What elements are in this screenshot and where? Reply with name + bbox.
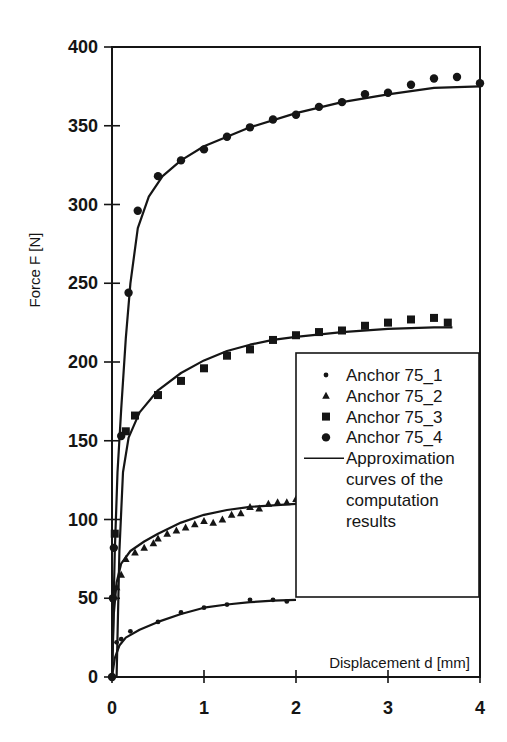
circle-marker: [154, 172, 162, 180]
square-marker: [269, 336, 277, 344]
square-marker: [444, 319, 452, 327]
triangle-marker: [265, 500, 273, 507]
triangle-marker: [283, 498, 291, 505]
square-marker: [223, 352, 231, 360]
circle-marker: [124, 289, 132, 297]
circle-marker: [292, 111, 300, 119]
legend-label: Anchor 75_2: [346, 387, 442, 406]
circle-marker: [453, 73, 461, 81]
square-marker: [292, 331, 300, 339]
triangle-marker: [209, 519, 217, 526]
circle-marker: [338, 98, 346, 106]
square-marker: [384, 319, 392, 327]
square-marker: [430, 314, 438, 322]
y-tick-label: 150: [68, 431, 98, 451]
circle-marker: [361, 90, 369, 98]
circle-legend-icon: [322, 433, 330, 441]
circle-marker: [134, 207, 142, 215]
small-dot-legend-icon: [324, 373, 329, 378]
square-marker: [338, 327, 346, 335]
chart: 050100150200250300350400 01234 Force F […: [0, 0, 507, 742]
circle-marker: [200, 145, 208, 153]
small-dot-marker: [248, 597, 253, 602]
small-dot-marker: [114, 640, 119, 645]
triangle-marker: [140, 544, 148, 551]
small-dot-marker: [119, 637, 124, 642]
circle-marker: [476, 79, 484, 87]
small-dot-marker: [179, 610, 184, 615]
y-tick-label: 400: [68, 37, 98, 57]
legend-label: curves of the: [346, 470, 443, 489]
legend-label: computation: [346, 491, 439, 510]
small-dot-marker: [128, 629, 133, 634]
square-marker: [131, 412, 139, 420]
y-tick-label: 0: [88, 667, 98, 687]
circle-marker: [177, 156, 185, 164]
x-axis-label: Displacement d [mm]: [329, 654, 470, 671]
triangle-marker: [182, 523, 190, 530]
circle-marker: [110, 544, 118, 552]
triangle-marker: [173, 527, 181, 534]
x-tick-label: 2: [291, 698, 301, 718]
square-marker: [361, 322, 369, 330]
approximation-curve: [112, 600, 296, 677]
square-legend-icon: [322, 413, 330, 421]
triangle-marker: [274, 498, 282, 505]
circle-marker: [223, 133, 231, 141]
x-tick-label: 3: [383, 698, 393, 718]
triangle-marker: [191, 520, 199, 527]
x-tick-label: 4: [475, 698, 485, 718]
square-marker: [246, 345, 254, 353]
y-tick-label: 250: [68, 273, 98, 293]
square-marker: [407, 315, 415, 323]
y-tick-label: 350: [68, 116, 98, 136]
circle-marker: [269, 115, 277, 123]
triangle-marker: [200, 517, 208, 524]
approximation-curve: [112, 504, 296, 677]
small-dot-marker: [284, 599, 289, 604]
square-marker: [200, 364, 208, 372]
y-axis-label: Force F [N]: [26, 232, 43, 307]
triangle-marker: [228, 511, 236, 518]
square-marker: [154, 391, 162, 399]
y-tick-label: 200: [68, 352, 98, 372]
legend-label: Anchor 75_1: [346, 366, 442, 385]
triangle-marker: [237, 509, 245, 516]
circle-marker: [407, 81, 415, 89]
circle-marker: [430, 74, 438, 82]
y-tick-label: 50: [78, 588, 98, 608]
small-dot-marker: [156, 619, 161, 624]
small-dot-marker: [202, 605, 207, 610]
small-dot-marker: [225, 602, 230, 607]
square-marker: [315, 328, 323, 336]
triangle-marker: [122, 555, 130, 562]
x-tick-label: 0: [107, 698, 117, 718]
circle-marker: [246, 123, 254, 131]
legend-label: Anchor 75_4: [346, 428, 442, 447]
legend-label: Approximation: [346, 449, 455, 468]
small-dot-marker: [271, 597, 276, 602]
circle-marker: [117, 432, 125, 440]
y-tick-label: 100: [68, 510, 98, 530]
circle-marker: [384, 88, 392, 96]
legend-label: Anchor 75_3: [346, 408, 442, 427]
x-tick-label: 1: [199, 698, 209, 718]
square-marker: [111, 530, 119, 538]
triangle-marker: [219, 516, 227, 523]
legend-label: results: [346, 512, 396, 531]
legend: Anchor 75_1Anchor 75_2Anchor 75_3Anchor …: [296, 353, 479, 597]
circle-marker: [315, 103, 323, 111]
y-tick-label: 300: [68, 195, 98, 215]
square-marker: [177, 377, 185, 385]
